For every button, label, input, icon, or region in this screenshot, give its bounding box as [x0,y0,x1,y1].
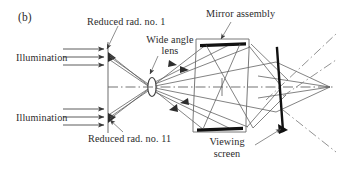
reduced-rad-top-label: Reduced rad. no. 1 [87,16,165,27]
fold-ray-1 [206,45,253,128]
reduced-rad-bottom-label: Reduced rad. no. 11 [88,133,171,144]
exit-dashed-ray-upper-2 [283,60,336,96]
wide-angle-lens-label-line1: Wide angle [138,34,202,45]
figure-container: (b) Reduced rad. no. 1 Reduced rad. no. … [0,0,338,169]
leader-mirror-assembly [221,22,231,39]
ray-out-l1 [155,90,248,127]
panel-label: (b) [18,11,32,23]
ray-out-l2 [155,92,229,128]
illumination-bottom-label: Illumination [16,112,68,123]
converge-ray-3 [258,76,330,87]
ray-11b [110,87,151,114]
ray-arrowhead-4 [180,98,189,105]
mirror-assembly-left-strut [193,51,196,120]
leader-reduced-rad-top [107,26,118,49]
fold-ray-6 [251,44,288,80]
internal-fold-rays [203,44,288,129]
leader-viewing-screen [255,129,281,145]
viewing-screen-label-line2: screen [201,148,253,159]
mirror-assembly-label: Mirror assembly [206,8,275,19]
leader-reduced-rad-bottom [110,120,123,132]
wide-angle-lens-label-line2: lens [138,45,202,56]
top-mirror-assembly [196,39,249,51]
viewing-screen-label-line1: Viewing [201,136,253,147]
illumination-arrows-bottom-group [63,109,104,125]
ray-1c [110,55,204,130]
bottom-mirror-assembly [193,120,246,132]
viewing-screen-surface [277,48,283,131]
mirror-assembly-right-strut [246,51,249,120]
ray-1b [110,60,151,88]
illumination-arrows-top-group [63,49,104,65]
illumination-top-label: Illumination [16,52,68,63]
exit-dashed-ray-lower [283,110,336,152]
ray-arrowhead-1 [168,60,177,67]
leader-wide-angle-lens [150,56,158,74]
ray-bundle-from-rad-1 [110,55,204,130]
